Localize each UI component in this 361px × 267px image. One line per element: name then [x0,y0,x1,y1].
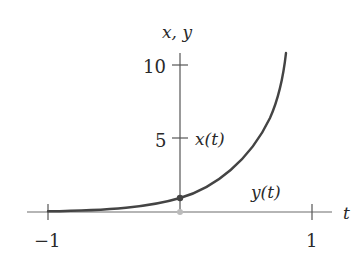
y-tick-label-10: 10 [143,56,166,77]
x-axis-label: t [343,203,350,223]
y-series-label: y(t) [250,182,281,202]
x-tick-label-neg1: −1 [34,230,61,251]
y-tick-label-5: 5 [155,130,166,151]
chart: x, y 10 5 x(t) y(t) t −1 1 [0,0,361,267]
x-series-label: x(t) [195,129,225,149]
x-tick-label-1: 1 [306,230,317,251]
y-initial-point [177,209,183,215]
y-axis-label: x, y [162,22,192,42]
x-initial-point [177,195,183,201]
